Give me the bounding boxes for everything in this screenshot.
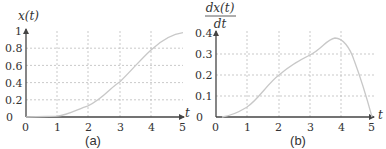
svg-text:5: 5 bbox=[179, 121, 186, 134]
x-label-b: t bbox=[378, 108, 383, 122]
grid-b bbox=[216, 31, 374, 117]
x-ticks-a: 0 1 2 3 4 5 bbox=[22, 121, 186, 134]
caption-a: (a) bbox=[85, 133, 101, 148]
svg-text:3: 3 bbox=[307, 121, 314, 134]
svg-text:4: 4 bbox=[338, 121, 345, 134]
caption-b: (b) bbox=[290, 133, 306, 148]
svg-text:4: 4 bbox=[148, 121, 155, 134]
svg-text:0.1: 0.1 bbox=[195, 90, 213, 103]
y-label-b-denominator: dt bbox=[214, 17, 227, 31]
y-label-a: x(t) bbox=[18, 9, 39, 23]
svg-text:1: 1 bbox=[244, 121, 251, 134]
curve-x-of-t bbox=[26, 33, 183, 117]
svg-text:1: 1 bbox=[54, 121, 61, 134]
chart-b: 0 0.1 0.2 0.3 0.4 0 1 2 3 4 5 dx(t) dt t… bbox=[195, 1, 383, 148]
svg-text:3: 3 bbox=[117, 121, 124, 134]
svg-text:0.2: 0.2 bbox=[195, 69, 213, 82]
svg-text:0.4: 0.4 bbox=[195, 27, 213, 40]
figure: 0 0.2 0.4 0.6 0.8 1 0 1 2 3 4 5 x(t) t (… bbox=[0, 0, 386, 149]
svg-text:0.6: 0.6 bbox=[5, 60, 23, 73]
svg-text:1: 1 bbox=[15, 25, 22, 38]
svg-text:0: 0 bbox=[6, 111, 13, 124]
x-label-a: t bbox=[185, 106, 190, 120]
svg-text:0.8: 0.8 bbox=[5, 42, 23, 55]
svg-text:0: 0 bbox=[196, 111, 203, 124]
grid-a bbox=[26, 31, 183, 117]
svg-text:0.3: 0.3 bbox=[195, 48, 213, 61]
y-label-b-numerator: dx(t) bbox=[206, 1, 235, 15]
y-ticks-b: 0 0.1 0.2 0.3 0.4 bbox=[195, 27, 213, 124]
svg-text:0.4: 0.4 bbox=[5, 77, 23, 90]
svg-text:0: 0 bbox=[22, 121, 29, 134]
chart-a: 0 0.2 0.4 0.6 0.8 1 0 1 2 3 4 5 x(t) t (… bbox=[5, 9, 190, 148]
svg-text:5: 5 bbox=[368, 121, 375, 134]
svg-text:0: 0 bbox=[212, 121, 219, 134]
svg-text:0.2: 0.2 bbox=[5, 94, 23, 107]
curve-dxdt bbox=[222, 38, 372, 117]
svg-text:2: 2 bbox=[275, 121, 282, 134]
y-ticks-a: 0 0.2 0.4 0.6 0.8 1 bbox=[5, 25, 23, 124]
